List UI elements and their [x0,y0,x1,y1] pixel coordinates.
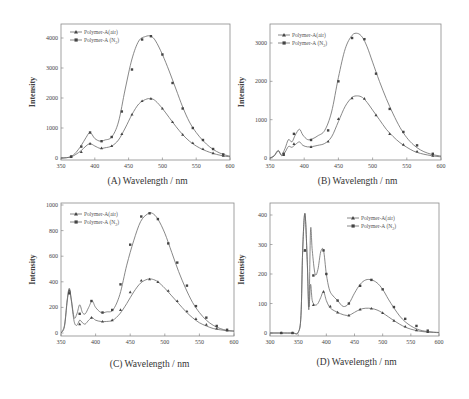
chart-panel-c: 35040045050055060002004006008001000Inten… [28,202,239,370]
legend-label-air: Polymer-A(air) [292,32,326,39]
plot-frame [270,203,439,336]
y-tick-label: 3000 [255,40,267,46]
square-marker-icon [212,148,214,150]
y-axis-label: Intensity [28,254,37,284]
y-tick-label: 200 [49,304,58,310]
square-marker-icon [78,313,80,315]
legend-label-n2: Polymer-A (N2) [84,37,119,45]
x-tick-label: 600 [226,163,235,169]
square-marker-icon [167,242,169,244]
y-tick-label: 0 [55,155,58,161]
y-tick-label: 0 [264,330,267,336]
x-tick-label: 500 [160,339,169,345]
square-marker-icon [291,332,293,334]
square-marker-icon [348,302,350,304]
y-tick-label: 400 [258,212,267,218]
square-marker-icon [111,136,113,138]
legend-square-icon [75,220,78,223]
series-air-curve [270,213,439,333]
legend: Polymer-A(air)Polymer-A (N2) [70,29,119,45]
square-marker-icon [282,153,284,155]
y-axis-label: Intensity [237,77,246,107]
y-tick-label: 300 [258,242,267,248]
y-tick-label: 1000 [46,125,58,131]
x-tick-label: 400 [322,339,331,345]
square-marker-icon [70,155,72,157]
x-tick-label: 450 [350,339,359,345]
square-marker-icon [336,299,338,301]
square-marker-icon [89,131,91,133]
square-marker-icon [121,110,123,112]
x-tick-label: 550 [192,163,201,169]
square-marker-icon [351,37,353,39]
square-marker-icon [157,218,159,220]
triangle-marker-icon [292,142,295,145]
legend-square-icon [352,224,355,227]
y-tick-label: 1000 [255,117,267,123]
y-tick-label: 0 [264,155,267,161]
legend: Polymer-A(air)Polymer-A (N2) [278,32,327,48]
legend-label-n2: Polymer-A (N2) [292,40,327,48]
y-tick-label: 400 [49,279,58,285]
square-marker-icon [195,305,197,307]
square-marker-icon [363,38,365,40]
square-marker-icon [415,325,417,327]
x-tick-label: 600 [230,339,239,345]
triangle-marker-icon [119,308,122,311]
square-marker-icon [111,309,113,311]
x-tick-label: 500 [158,163,167,169]
x-tick-label: 500 [378,339,387,345]
x-tick-label: 350 [57,339,66,345]
square-marker-icon [226,329,228,331]
triangle-marker-icon [140,279,143,282]
square-marker-icon [192,127,194,129]
y-tick-label: 600 [49,253,58,259]
y-tick-label: 0 [55,330,58,336]
x-tick-label: 350 [57,163,66,169]
square-marker-icon [140,215,142,217]
square-marker-icon [389,108,391,110]
square-marker-icon [101,311,103,313]
square-marker-icon [205,316,207,318]
y-axis-label: Intensity [237,254,246,284]
y-axis-label: Intensity [28,77,37,107]
x-tick-label: 600 [435,339,444,345]
series-air-curve [61,279,234,333]
square-marker-icon [312,274,314,276]
square-marker-icon [280,332,282,334]
x-axis-label: (D) Wavelength / nm [316,357,397,368]
x-axis-label: (C) Wavelength / nm [110,359,190,370]
square-marker-icon [181,107,183,109]
square-marker-icon [325,273,327,275]
x-tick-label: 350 [294,339,303,345]
square-marker-icon [216,325,218,327]
square-marker-icon [131,68,133,70]
legend: Polymer-A(air)Polymer-A (N2) [347,215,396,231]
square-marker-icon [293,133,295,135]
x-tick-label: 400 [91,339,100,345]
triangle-marker-icon [205,323,208,326]
x-axis-label: (B) Wavelength / nm [318,176,398,187]
square-marker-icon [327,129,329,131]
y-tick-label: 2000 [255,78,267,84]
legend-square-icon [283,41,286,44]
square-marker-icon [150,35,152,37]
x-tick-label: 400 [300,163,309,169]
legend-label-air: Polymer-A(air) [84,29,118,36]
square-marker-icon [359,285,361,287]
legend-square-icon [75,38,78,41]
square-marker-icon [432,153,434,155]
square-marker-icon [119,283,121,285]
series-air-curve [61,99,230,158]
series-air-curve [270,96,441,158]
square-marker-icon [141,38,143,40]
square-marker-icon [381,288,383,290]
x-tick-label: 350 [266,163,275,169]
series-n2-curve [61,213,234,333]
x-tick-label: 450 [126,339,135,345]
y-tick-label: 3000 [46,65,58,71]
x-tick-label: 450 [124,163,133,169]
square-marker-icon [337,80,339,82]
y-tick-label: 200 [258,271,267,277]
square-marker-icon [322,249,324,251]
